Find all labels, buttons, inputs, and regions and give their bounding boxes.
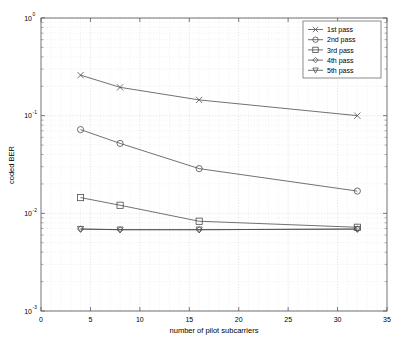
x-tick-label: 30 <box>334 316 342 323</box>
legend-label: 3rd pass <box>327 47 354 55</box>
svg-text:10: 10 <box>24 15 32 22</box>
svg-text:-1: -1 <box>33 110 38 115</box>
svg-text:0: 0 <box>33 12 36 17</box>
x-tick-label: 10 <box>136 316 144 323</box>
x-tick-label: 0 <box>39 316 43 323</box>
y-axis-label: coded BER <box>7 145 16 184</box>
x-tick-label: 15 <box>185 316 193 323</box>
legend-label: 2nd pass <box>327 36 356 44</box>
x-tick-label: 35 <box>383 316 391 323</box>
legend-label: 5th pass <box>327 67 354 75</box>
legend[interactable]: 1st pass2nd pass3rd pass4th pass5th pass <box>303 21 381 78</box>
svg-text:10: 10 <box>24 308 32 315</box>
x-tick-label: 25 <box>284 316 292 323</box>
figure-container: 05101520253035 10010-110-210-3 number of… <box>0 0 403 350</box>
x-tick-label: 20 <box>235 316 243 323</box>
legend-label: 4th pass <box>327 57 354 65</box>
legend-label: 1st pass <box>327 26 354 34</box>
x-axis-label: number of pilot subcarriers <box>170 326 259 335</box>
svg-text:-2: -2 <box>33 208 38 213</box>
chart-svg: 05101520253035 10010-110-210-3 number of… <box>0 0 403 350</box>
svg-text:-3: -3 <box>33 305 38 310</box>
x-tick-label: 5 <box>88 316 92 323</box>
svg-text:10: 10 <box>24 112 32 119</box>
svg-text:10: 10 <box>24 210 32 217</box>
